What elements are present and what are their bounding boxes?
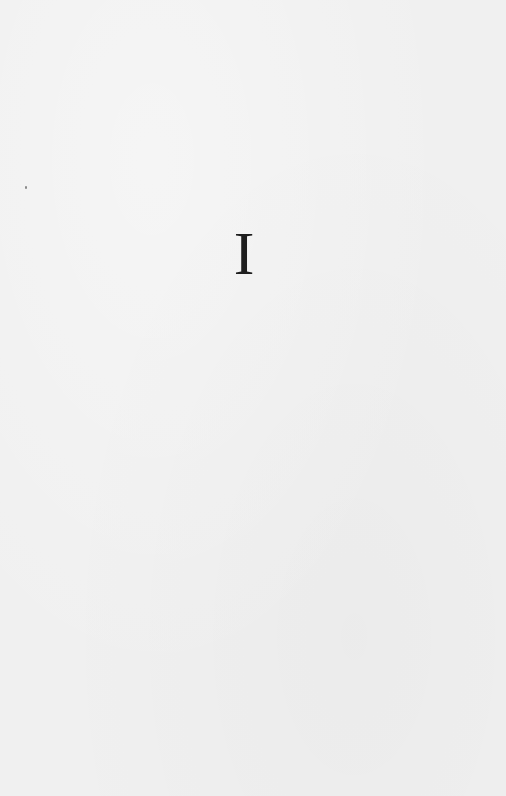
document-page: I (0, 0, 506, 796)
scan-speck (25, 186, 27, 189)
section-numeral-heading: I (0, 222, 488, 284)
